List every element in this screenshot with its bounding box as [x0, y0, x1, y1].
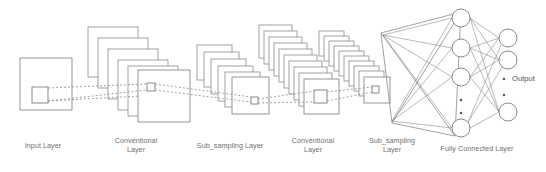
ellipsis-dot: [460, 112, 463, 115]
ellipsis-dot: [460, 99, 463, 102]
conv2-receptive-field: [314, 90, 327, 103]
label-conventional-layer-2: Conventional Layer: [283, 136, 343, 154]
hidden-layer-ellipsis: [460, 99, 463, 115]
conv1-card-front: [138, 70, 190, 122]
fc-edge: [383, 35, 452, 128]
sub1-receptive-field: [251, 97, 258, 104]
input-layer-group: [20, 58, 72, 110]
fc-edge: [470, 38, 499, 48]
fc-edge: [383, 18, 452, 35]
label-input-layer: Input Layer: [13, 141, 73, 150]
fc-edge: [470, 112, 499, 128]
hidden-node: [452, 119, 470, 137]
sub2-receptive-field: [372, 86, 379, 93]
output-node: [499, 29, 517, 47]
sub1-card-front: [232, 77, 269, 114]
fc-edge: [392, 77, 452, 121]
label-output: Output: [512, 74, 535, 83]
label-conventional-layer-1: Conventional Layer: [106, 136, 166, 154]
hidden-node: [452, 39, 470, 57]
hidden-node: [452, 68, 470, 86]
fc-edge: [392, 18, 452, 121]
conv1-receptive-field: [147, 83, 155, 91]
label-subsampling-layer-1: Sub_sampling Layer: [191, 141, 269, 150]
output-layer-ellipsis: [503, 78, 506, 97]
output-node: [499, 51, 517, 69]
fc-edge: [468, 66, 503, 122]
ellipsis-dot: [503, 78, 506, 81]
funnel-edge-bottom: [392, 12, 461, 123]
fc-edge: [470, 18, 499, 38]
fully-connected-hidden-nodes: [452, 9, 470, 137]
fc-edge: [470, 18, 499, 60]
conventional-layer-1-group: [88, 27, 190, 122]
hidden-node: [452, 9, 470, 27]
ellipsis-dot: [503, 94, 506, 97]
label-fully-connected-layer: Fully Connected Layer: [429, 144, 525, 153]
label-subsampling-layer-2: Sub_sampling Layer: [363, 136, 421, 154]
fc-edge: [470, 18, 499, 112]
flatten-funnel: [381, 12, 461, 136]
fully-connected-edges: [383, 18, 503, 128]
input-layer-receptive-field: [32, 87, 48, 103]
cnn-architecture-figure: Input Layer Conventional Layer Sub_sampl…: [0, 0, 546, 172]
output-node: [499, 103, 517, 121]
fc-edge: [470, 60, 499, 77]
fc-edge: [468, 45, 501, 122]
subsampling-layer-1-group: [197, 45, 269, 114]
